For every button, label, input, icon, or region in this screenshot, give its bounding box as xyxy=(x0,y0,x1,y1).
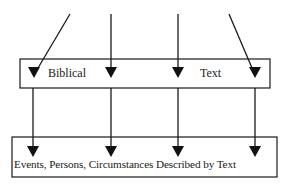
arrowhead-icon xyxy=(105,67,117,78)
arrowhead-icon xyxy=(172,146,184,157)
arrowhead-icon xyxy=(28,67,40,78)
outgoing-arrow-3 xyxy=(172,88,184,157)
arrowhead-icon xyxy=(27,146,39,157)
outgoing-arrow-2 xyxy=(105,88,117,157)
outgoing-arrow-1 xyxy=(27,88,39,157)
arrowhead-icon xyxy=(249,146,261,157)
incoming-arrow-2 xyxy=(105,14,117,78)
text-label: Text xyxy=(200,66,221,80)
incoming-arrow-3 xyxy=(172,14,184,78)
incoming-arrow-4 xyxy=(229,14,261,78)
arrowhead-icon xyxy=(249,67,261,78)
arrowhead-icon xyxy=(172,67,184,78)
outgoing-arrow-4 xyxy=(249,88,261,157)
biblical-label: Biblical xyxy=(48,66,86,80)
arrowhead-icon xyxy=(105,146,117,157)
events-label: Events, Persons, Circumstances Described… xyxy=(14,157,236,171)
